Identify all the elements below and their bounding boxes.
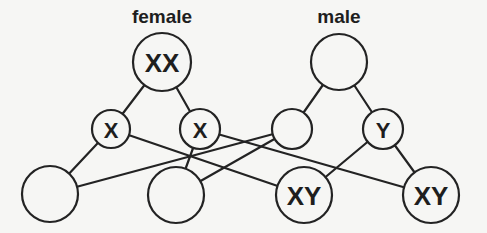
node-circle	[311, 34, 367, 90]
diagram-svg: female male XXXXYXYXY	[0, 0, 487, 233]
heading-male: male	[317, 6, 360, 27]
node-offspring-1	[22, 166, 78, 222]
node-label: X	[193, 118, 208, 143]
node-circle	[272, 109, 312, 149]
node-male-gamete-2: Y	[363, 109, 403, 149]
node-female-parent: XX	[133, 33, 191, 91]
node-female-gamete-2: X	[180, 109, 220, 149]
node-label: XY	[287, 181, 322, 211]
node-male-parent	[311, 34, 367, 90]
punnett-inheritance-diagram: female male XXXXYXYXY	[0, 0, 487, 233]
node-label: XX	[145, 48, 180, 78]
heading-female: female	[132, 6, 192, 27]
node-offspring-3: XY	[276, 167, 332, 223]
node-female-gamete-1: X	[92, 110, 130, 148]
node-label: X	[104, 118, 119, 143]
node-male-gamete-1	[272, 109, 312, 149]
node-offspring-4: XY	[403, 167, 459, 223]
node-layer: XXXXYXYXY	[22, 33, 459, 223]
node-circle	[22, 166, 78, 222]
node-label: XY	[414, 181, 449, 211]
node-label: Y	[376, 118, 391, 143]
node-offspring-2	[148, 167, 204, 223]
node-circle	[148, 167, 204, 223]
